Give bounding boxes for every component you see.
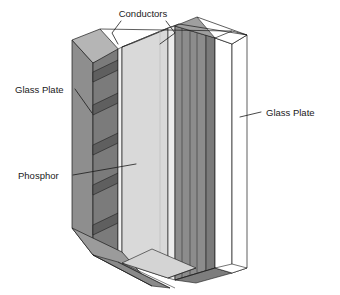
label-conductors: Conductors — [119, 8, 168, 19]
label-phosphor: Phosphor — [18, 170, 59, 181]
label-glass-plate-left: Glass Plate — [15, 84, 64, 95]
gap-left — [118, 47, 122, 263]
phosphor-front-face — [122, 28, 168, 278]
phosphor-sliver — [168, 26, 175, 280]
label-glass-plate-right-group: Glass Plate — [240, 107, 315, 118]
glass-plate-right-front-face — [215, 38, 232, 273]
panel-assembly — [72, 17, 247, 288]
plasma-panel-diagram: Conductors Glass Plate Glass Plate Phosp… — [0, 0, 340, 295]
diagram-root: Conductors Glass Plate Glass Plate Phosp… — [0, 0, 340, 295]
leader-conductors-left — [112, 21, 121, 44]
label-glass-plate-right: Glass Plate — [266, 107, 315, 118]
conductor-slab-right-shadow — [206, 35, 215, 271]
glass-plate-left-front-face — [72, 40, 93, 255]
glass-plate-right-transparent — [215, 31, 247, 273]
glass-plate-right-side-face — [232, 35, 247, 273]
